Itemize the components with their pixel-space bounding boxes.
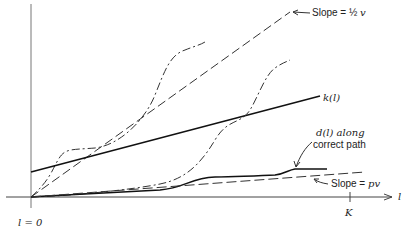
- slope-half-v-line: [31, 12, 290, 197]
- x-axis-label: l: [398, 191, 401, 202]
- k-line: [31, 96, 320, 172]
- d-label-line1: d(l) along: [316, 127, 365, 138]
- k-tick-label: K: [344, 207, 353, 218]
- upper-wavy-path: [31, 42, 205, 197]
- d-label-line2: correct path: [313, 139, 366, 150]
- d-label-arrow-icon: [294, 142, 312, 167]
- slope-half-v-label: Slope = ½ v: [312, 7, 366, 18]
- origin-label: l = 0: [18, 217, 43, 228]
- d-curve: [31, 169, 327, 197]
- slope-pv-line: [31, 172, 365, 197]
- slope-pv-arrow-icon: [314, 179, 328, 184]
- k-label: k(l): [323, 92, 340, 103]
- diagram: Slope = ½ v k(l) d(l) along correct path…: [0, 0, 410, 238]
- slope-half-v-arrow-icon: [293, 10, 310, 15]
- slope-pv-label: Slope = pv: [331, 178, 380, 189]
